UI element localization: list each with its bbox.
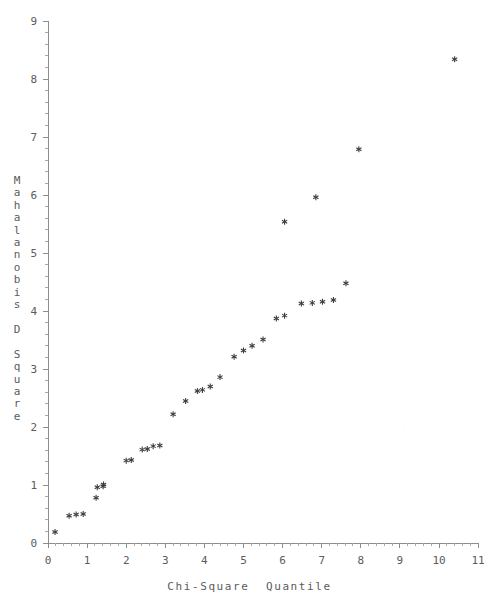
data-point — [95, 484, 100, 490]
data-point — [232, 354, 237, 360]
data-point — [81, 511, 86, 517]
data-point — [217, 374, 222, 380]
y-tick-label: 8 — [30, 73, 37, 86]
x-tick-label: 2 — [123, 554, 130, 567]
plot-canvas: 012345678910110123456789 — [0, 0, 499, 604]
data-point — [124, 458, 129, 464]
y-axis-title: Mahalanobis D Square — [8, 175, 26, 423]
y-tick-label: 0 — [30, 537, 37, 550]
x-tick-label: 5 — [240, 554, 247, 567]
data-point — [129, 457, 134, 463]
x-tick-label: 9 — [397, 554, 404, 567]
y-axis-title-letter — [8, 336, 26, 348]
data-point — [183, 398, 188, 404]
data-point — [241, 347, 246, 353]
tick-labels-group: 012345678910110123456789 — [30, 15, 484, 567]
y-tick-label: 6 — [30, 189, 37, 202]
data-point — [282, 219, 287, 225]
data-point — [200, 387, 205, 393]
y-axis-title-letter: q — [8, 361, 26, 373]
x-tick-label: 3 — [162, 554, 169, 567]
data-point — [299, 300, 304, 306]
data-point — [93, 495, 98, 501]
data-point — [145, 446, 150, 452]
y-tick-label: 9 — [30, 15, 37, 28]
data-point — [331, 297, 336, 303]
data-point — [140, 447, 145, 453]
x-tick-label: 11 — [471, 554, 484, 567]
y-tick-label: 4 — [30, 305, 37, 318]
data-point — [320, 299, 325, 305]
y-tick-label: 5 — [30, 247, 37, 260]
data-point — [74, 512, 79, 518]
y-axis-title-letter: r — [8, 398, 26, 410]
y-tick-label: 1 — [30, 479, 37, 492]
x-tick-label: 7 — [318, 554, 325, 567]
data-point — [151, 443, 156, 449]
y-tick-label: 7 — [30, 131, 37, 144]
x-tick-label: 1 — [84, 554, 91, 567]
data-point — [274, 316, 279, 322]
x-axis-title: Chi-Square Quantile — [0, 580, 499, 593]
x-tick-label: 4 — [201, 554, 208, 567]
y-axis-title-letter: e — [8, 411, 26, 423]
x-tick-label: 8 — [357, 554, 364, 567]
data-point — [67, 513, 72, 519]
data-point — [310, 300, 315, 306]
y-axis-title-letter: n — [8, 249, 26, 261]
y-tick-label: 3 — [30, 363, 37, 376]
qq-plot-chart: 012345678910110123456789 Mahalanobis D S… — [0, 0, 499, 604]
data-point — [249, 343, 254, 349]
data-point — [171, 411, 176, 417]
x-tick-label: 6 — [279, 554, 286, 567]
y-axis-title-letter: b — [8, 274, 26, 286]
y-axis-title-letter: a — [8, 187, 26, 199]
x-tick-label: 10 — [432, 554, 445, 567]
data-point — [282, 313, 287, 319]
data-point — [452, 56, 457, 62]
data-point — [157, 443, 162, 449]
x-tick-label: 0 — [45, 554, 52, 567]
axes-group — [48, 21, 478, 543]
data-point — [52, 529, 57, 535]
data-point — [356, 146, 361, 152]
y-tick-label: 2 — [30, 421, 37, 434]
data-point — [260, 336, 265, 342]
data-point — [208, 383, 213, 389]
data-point — [195, 388, 200, 394]
y-axis-title-letter — [8, 311, 26, 323]
data-points-group — [52, 56, 457, 535]
data-point — [313, 194, 318, 200]
y-axis-title-letter: a — [8, 212, 26, 224]
tick-marks-group — [43, 21, 478, 548]
data-point — [343, 280, 348, 286]
